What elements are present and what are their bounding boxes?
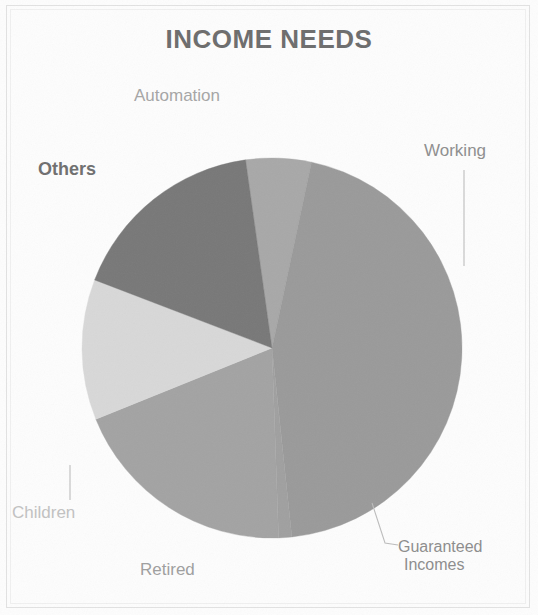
pie-label-guaranteed-line2: Incomes xyxy=(398,556,483,574)
pie-chart xyxy=(0,0,538,615)
pie-label-guaranteed-line1: Guaranteed xyxy=(398,538,483,555)
pie-slices xyxy=(82,158,462,538)
pie-label-retired: Retired xyxy=(140,560,195,580)
pie-label-others: Others xyxy=(38,159,96,180)
pie-slice-working xyxy=(272,162,462,537)
pie-label-working: Working xyxy=(424,141,486,161)
leader-line-guaranteed-incomes xyxy=(372,503,398,545)
pie-label-automation: Automation xyxy=(134,86,220,106)
pie-label-children: Children xyxy=(12,503,75,523)
chart-screenshot: INCOME NEEDS Automation Others Working C… xyxy=(0,0,538,615)
pie-label-guaranteed-incomes: Guaranteed Incomes xyxy=(398,538,483,575)
